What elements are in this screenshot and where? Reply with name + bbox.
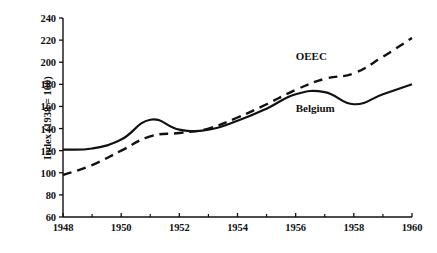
plot-svg	[0, 0, 437, 253]
y-axis-tick-label: 240	[28, 13, 56, 24]
y-axis-tick-label: 60	[28, 212, 56, 223]
series-line-oeec	[63, 38, 412, 175]
x-axis-tick-label: 1950	[111, 222, 132, 233]
series-label-oeec: OEEC	[296, 50, 327, 62]
chart-figure: Index (1938 = 100) 608010012014016018020…	[0, 0, 437, 253]
x-axis-tick-label: 1952	[169, 222, 190, 233]
x-axis-tick-label: 1960	[402, 222, 423, 233]
y-axis-tick-label: 200	[28, 57, 56, 68]
y-axis-tick-label: 80	[28, 189, 56, 200]
x-axis-tick-label: 1948	[53, 222, 74, 233]
x-axis-tick-label: 1958	[344, 222, 365, 233]
series-label-belgium: Belgium	[296, 102, 335, 114]
data-series-group	[63, 38, 412, 175]
x-axis-tick-label: 1954	[227, 222, 248, 233]
y-axis-tick-label: 220	[28, 35, 56, 46]
x-axis-tick-label: 1956	[285, 222, 306, 233]
y-axis-tick-label: 120	[28, 145, 56, 156]
y-axis-tick-label: 140	[28, 123, 56, 134]
y-axis-tick-label: 180	[28, 79, 56, 90]
y-axis-tick-label: 160	[28, 101, 56, 112]
y-axis-tick-label: 100	[28, 167, 56, 178]
